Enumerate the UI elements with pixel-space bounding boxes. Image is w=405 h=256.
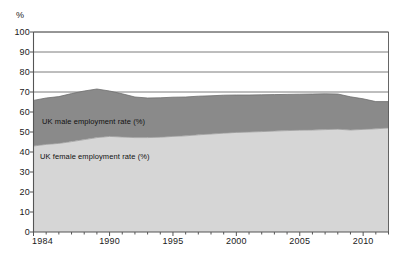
chart-plot-area xyxy=(0,0,405,256)
y-tick-label: 100 xyxy=(2,27,30,37)
y-tick-label: 10 xyxy=(2,207,30,217)
x-tick-label: 1995 xyxy=(163,236,184,246)
y-tick-label: 20 xyxy=(2,187,30,197)
y-axis-tick-labels: 0102030405060708090100 xyxy=(0,0,30,256)
y-tick-label: 0 xyxy=(2,227,30,237)
y-tick-label: 30 xyxy=(2,167,30,177)
y-tick-label: 80 xyxy=(2,67,30,77)
x-tick-label: 2010 xyxy=(353,236,374,246)
x-tick-label: 2005 xyxy=(289,236,310,246)
x-tick-label: 2000 xyxy=(226,236,247,246)
series-label-female: UK female employment rate (%) xyxy=(40,152,150,161)
y-tick-label: 50 xyxy=(2,127,30,137)
y-tick-label: 60 xyxy=(2,107,30,117)
x-tick-label: 1984 xyxy=(32,236,53,246)
y-tick-label: 40 xyxy=(2,147,30,157)
x-tick-label: 1990 xyxy=(99,236,120,246)
y-tick-label: 90 xyxy=(2,47,30,57)
employment-rate-area-chart: % 0102030405060708090100 198419901995200… xyxy=(0,0,405,256)
series-label-male: UK male employment rate (%) xyxy=(42,117,145,126)
y-tick-label: 70 xyxy=(2,87,30,97)
